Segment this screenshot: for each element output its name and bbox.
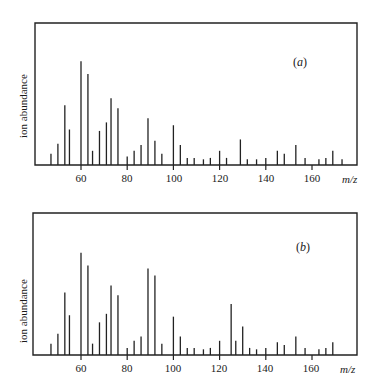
- panel-label-a: (a): [293, 55, 307, 70]
- chart-b-plot: [0, 190, 375, 391]
- x-tick-100-a: 100: [166, 172, 183, 184]
- x-tick-80-a: 80: [122, 172, 133, 184]
- panel-label-b: (b): [296, 240, 310, 255]
- x-tick-60-b: 60: [76, 362, 87, 374]
- x-tick-100-b: 100: [165, 362, 182, 374]
- x-axis-label-a: m/z: [342, 173, 357, 185]
- y-axis-label-a: ion abundance: [17, 74, 29, 138]
- x-tick-80-b: 80: [122, 362, 133, 374]
- x-axis-label-b: m/z: [340, 363, 355, 375]
- chart-panel-b: ion abundance (b) 60 80 100 120 140 160 …: [0, 190, 375, 391]
- x-tick-120-a: 120: [212, 172, 229, 184]
- x-tick-140-a: 140: [258, 172, 275, 184]
- chart-a-plot: [0, 0, 375, 195]
- y-axis-label-b: ion abundance: [17, 279, 29, 343]
- chart-panel-a: ion abundance (a) 60 80 100 120 140 160 …: [0, 0, 375, 195]
- x-tick-140-b: 140: [257, 362, 274, 374]
- x-tick-60-a: 60: [76, 172, 87, 184]
- axes-frame: [35, 23, 357, 165]
- x-tick-120-b: 120: [211, 362, 228, 374]
- x-tick-160-a: 160: [304, 172, 321, 184]
- x-tick-160-b: 160: [303, 362, 320, 374]
